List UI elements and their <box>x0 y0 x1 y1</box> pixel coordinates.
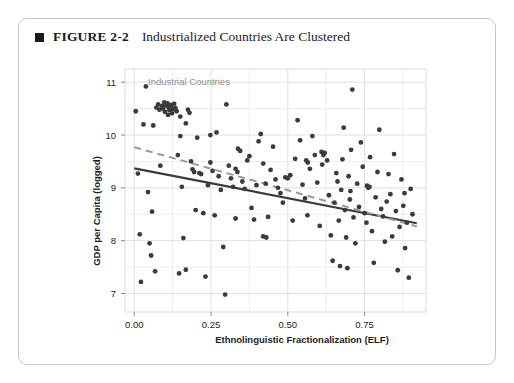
data-point <box>332 200 337 205</box>
data-point <box>216 174 221 179</box>
data-point <box>226 163 231 168</box>
data-point <box>410 212 415 217</box>
data-point <box>348 189 353 194</box>
data-point <box>325 158 330 163</box>
data-point <box>245 158 250 163</box>
data-point <box>149 253 154 258</box>
data-point <box>392 152 397 157</box>
data-point <box>178 114 183 119</box>
data-point <box>247 154 252 159</box>
data-point <box>136 171 141 176</box>
data-point <box>235 170 240 175</box>
data-point <box>343 208 348 213</box>
data-point <box>183 121 188 126</box>
data-point <box>212 213 217 218</box>
data-point <box>403 246 408 251</box>
x-tick-labels: 0.000.250.500.75 <box>125 319 374 330</box>
data-point <box>357 204 362 209</box>
data-point <box>315 180 320 185</box>
data-point <box>206 183 211 188</box>
data-point <box>199 172 204 177</box>
x-axis-title: Ethnolinguistic Fractionalization (ELF) <box>215 334 389 345</box>
data-point <box>298 138 303 143</box>
data-point <box>310 134 315 139</box>
data-point <box>264 235 269 240</box>
data-point <box>373 195 378 200</box>
data-point <box>278 191 283 196</box>
data-point <box>305 160 310 165</box>
data-point <box>266 215 271 220</box>
data-point <box>187 110 192 115</box>
data-point <box>240 179 245 184</box>
data-point <box>273 177 278 182</box>
data-point <box>139 279 144 284</box>
data-point <box>276 185 281 190</box>
data-point <box>334 171 339 176</box>
data-point <box>189 159 194 164</box>
data-point <box>340 157 345 162</box>
data-point <box>172 101 177 106</box>
data-point <box>381 214 386 219</box>
data-point <box>192 170 197 175</box>
data-point <box>408 187 413 192</box>
data-point <box>258 132 263 137</box>
data-point <box>133 109 138 114</box>
data-point <box>242 187 247 192</box>
data-point <box>263 181 268 186</box>
data-point <box>355 181 360 186</box>
data-point <box>254 183 259 188</box>
data-point <box>320 162 325 167</box>
data-point <box>367 184 372 189</box>
data-point <box>203 274 208 279</box>
data-point <box>261 161 266 166</box>
data-point <box>362 211 367 216</box>
data-point <box>401 203 406 208</box>
data-point <box>405 220 410 225</box>
data-point <box>271 144 276 149</box>
data-point <box>394 209 399 214</box>
data-point <box>399 177 404 182</box>
data-point <box>370 229 375 234</box>
data-point <box>382 239 387 244</box>
data-point <box>181 236 186 241</box>
data-point <box>249 206 254 211</box>
data-point <box>218 188 223 193</box>
data-point <box>280 200 285 205</box>
data-point <box>183 267 188 272</box>
data-point <box>233 216 238 221</box>
data-point <box>330 258 335 263</box>
data-point <box>312 153 317 158</box>
data-point <box>379 207 384 212</box>
data-point <box>406 275 411 280</box>
data-point <box>371 260 376 265</box>
data-point <box>177 271 182 276</box>
data-point <box>178 134 183 139</box>
x-tick-label: 0.25 <box>202 319 221 330</box>
data-point <box>395 268 400 273</box>
data-point <box>353 241 358 246</box>
data-point <box>368 155 373 160</box>
data-point <box>208 160 213 165</box>
data-point <box>221 245 226 250</box>
data-point <box>268 168 273 173</box>
data-point <box>295 118 300 123</box>
data-point <box>388 192 393 197</box>
data-point <box>201 211 206 216</box>
data-point <box>377 127 382 132</box>
data-point <box>224 102 229 107</box>
annotation-industrial-countries: Industrial Countries <box>148 76 230 87</box>
data-point <box>208 133 213 138</box>
y-tick-label: 7 <box>111 288 116 299</box>
data-point <box>358 140 363 145</box>
data-point <box>341 125 346 130</box>
data-point <box>153 269 158 274</box>
data-point <box>256 139 261 144</box>
chart-svg: Industrial Countries 0.000.250.500.75 78… <box>19 19 497 366</box>
data-point <box>141 122 146 127</box>
data-point <box>335 179 340 184</box>
data-point <box>137 232 142 237</box>
data-point <box>321 153 326 158</box>
data-point <box>238 148 243 153</box>
data-point <box>336 218 341 223</box>
data-point <box>231 184 236 189</box>
